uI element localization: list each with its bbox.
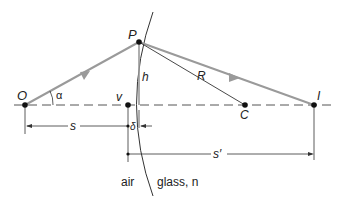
- label-air: air: [121, 175, 134, 189]
- label-v: v: [116, 90, 123, 104]
- label-h: h: [142, 70, 149, 84]
- label-glass: glass, n: [157, 175, 198, 189]
- s-arrow-left-icon: [26, 124, 32, 128]
- point-P: [136, 39, 142, 45]
- refracted-ray: [139, 42, 314, 105]
- label-C: C: [240, 108, 249, 122]
- delta-arrow-icon: [140, 124, 146, 128]
- label-R: R: [197, 69, 206, 83]
- point-I: [311, 102, 317, 108]
- s-label: s: [70, 119, 76, 133]
- label-I: I: [317, 89, 321, 103]
- point-v: [125, 102, 131, 108]
- label-alpha: α: [56, 89, 63, 101]
- delta-label: δ: [130, 121, 136, 132]
- angle-arc: [50, 91, 53, 105]
- s-prime-arrow-right-icon: [308, 152, 314, 156]
- s-prime-label: s′: [213, 147, 222, 161]
- incident-ray-arrow-icon: [80, 71, 90, 80]
- point-s-prime-start: [126, 152, 129, 155]
- refracted-ray-arrow-icon: [229, 73, 240, 82]
- point-C: [242, 102, 248, 108]
- label-P: P: [128, 27, 137, 42]
- point-O: [22, 102, 28, 108]
- label-O: O: [17, 88, 27, 103]
- refraction-diagram: s δ s′ O P v C I α h R air glass, n: [0, 0, 344, 205]
- point-s-end: [126, 124, 129, 127]
